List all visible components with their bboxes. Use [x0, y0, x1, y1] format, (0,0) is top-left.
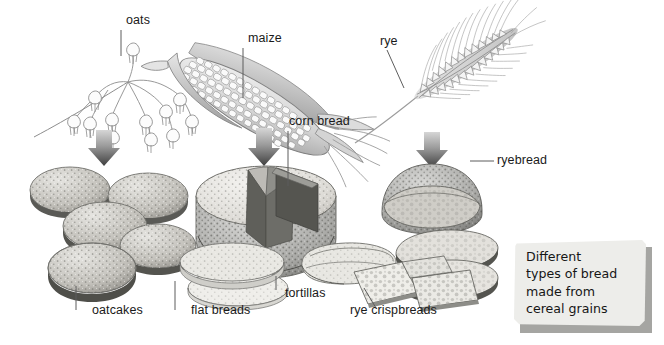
label-oatcakes: oatcakes — [92, 303, 143, 317]
leader-rye — [387, 50, 404, 88]
label-oats: oats — [126, 13, 150, 27]
rye-ear-drawing — [355, 0, 559, 143]
caption-line-1: Different — [526, 248, 644, 265]
oatcakes-drawing — [30, 167, 196, 302]
label-ryebread: ryebread — [497, 153, 547, 167]
caption-card: Different types of bread made from cerea… — [514, 240, 652, 332]
label-tortillas: tortillas — [285, 286, 326, 300]
caption-line-3: made from — [526, 283, 644, 300]
label-rye-crispbreads: rye crispbreads — [350, 303, 437, 317]
label-maize: maize — [248, 31, 282, 45]
caption-line-4: cereal grains — [526, 300, 644, 317]
label-corn-bread: corn bread — [289, 114, 350, 128]
flat-breads-drawing — [180, 243, 288, 310]
caption-text: Different types of bread made from cerea… — [526, 248, 644, 318]
label-flat-breads: flat breads — [191, 303, 250, 317]
process-arrows — [88, 128, 448, 168]
figure-canvas: oats maize rye corn bread ryebread oatca… — [0, 0, 664, 345]
label-rye: rye — [380, 34, 398, 48]
arrow-rye-to-ryebread — [416, 132, 448, 168]
caption-line-2: types of bread — [526, 265, 644, 282]
